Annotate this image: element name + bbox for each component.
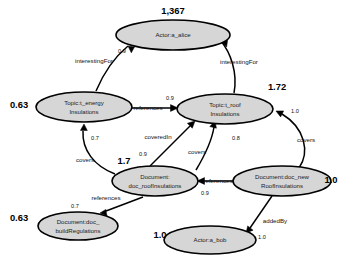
edge-label: coveredIn [144,133,172,140]
graph-node[interactable]: Document:doc_roofInsulations [112,166,198,196]
edge-label: covers [297,136,315,143]
edge-weight: 0.8 [232,135,240,141]
edge-arrowhead-icon [128,46,135,53]
graph-edge: covers0.8 [188,121,240,170]
node-label-line1: Document: [140,173,170,180]
edge-line [83,131,115,174]
diagram-canvas: interestingFor0.9interestingFor0.8refere… [0,0,346,255]
edge-weight: 1.0 [291,108,299,114]
graph-node[interactable]: Actor:a_alice [116,20,230,50]
node-label-line1: Topic:t_energy [64,99,105,106]
graph-edge: references0.9 [197,177,233,197]
edge-label: addedBy [263,217,288,224]
edge-label: interestingFor [75,57,113,64]
edge-label: references [91,194,120,201]
edge-label: references [133,104,162,111]
edges-layer: interestingFor0.9interestingFor0.8refere… [71,31,315,240]
edge-weight: 0.9 [139,151,147,157]
edge-weight: 0.9 [118,48,126,54]
node-label-line1: Actor:a_alice [155,31,191,38]
edge-weight: 0.9 [166,95,174,101]
node-label-line2: doc_roofInsulations [129,182,182,189]
node-label-line2: buildRegulations [55,227,100,234]
edge-label: interestingFor [220,58,258,65]
edge-arrowhead-icon [80,124,87,131]
graph-edge: interestingFor0.9 [75,46,134,91]
node-score: 1.72 [268,81,286,92]
edge-label: covers [188,148,206,155]
node-score: 1.0 [324,174,337,185]
graph-node[interactable]: Topic:t_energyInsulations [36,92,132,122]
node-score: 1.7 [117,155,130,166]
graph-edge: covers0.7 [76,124,115,174]
graph-node[interactable]: Document:doc_newRoofInsulations [233,166,331,196]
node-score: 0.63 [10,212,28,223]
node-label-line2: Insulations [210,110,239,117]
node-score: 1.0 [153,229,166,240]
graph-node[interactable]: Actor:a_bob [164,226,256,254]
node-label-line1: Actor:a_bob [194,236,227,243]
knowledge-graph: interestingFor0.9interestingFor0.8refere… [0,0,346,255]
edge-line [221,41,235,93]
edge-weight: 0.9 [201,190,209,196]
edge-weight: 0.7 [71,203,79,209]
node-label-line2: RoofInsulations [261,182,303,189]
edge-label: references [203,177,232,184]
graph-node[interactable]: Document:doc_buildRegulations [38,212,118,240]
graph-edge: coveredIn0.9 [139,121,195,166]
node-label-line1: Document:doc_new [255,173,309,180]
graph-node[interactable]: Topic:t_roofInsulations [177,94,273,124]
edge-weight: 0.7 [91,135,99,141]
graph-edge: covers1.0 [276,108,315,168]
node-label-line1: Topic:t_roof [209,101,241,108]
node-score: 1,367 [161,5,184,16]
graph-edge: references0.9 [132,95,178,111]
node-score: 0.63 [10,99,28,110]
edge-weight: 1.0 [258,234,266,240]
node-label-line2: Insulations [69,108,98,115]
node-label-line1: Document:doc_ [57,218,100,225]
edge-label: covers [76,156,94,163]
